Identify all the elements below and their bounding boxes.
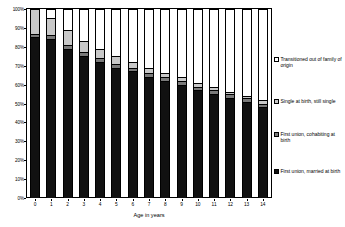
bar-age-0[interactable]	[30, 9, 40, 198]
bar-segment	[193, 9, 203, 83]
y-axis-tick-label: 100%	[13, 7, 24, 12]
bar-age-2[interactable]	[63, 9, 73, 198]
x-axis-tick-mark	[165, 199, 166, 201]
legend-label: Transitioned out of family of origin	[281, 56, 345, 68]
plot-area	[27, 9, 271, 198]
x-axis-tick-mark	[84, 199, 85, 201]
y-axis-tick-label: 60%	[15, 82, 24, 87]
legend-item-transitioned[interactable]: Transitioned out of family of origin	[274, 56, 345, 68]
x-axis-tick-mark	[263, 199, 264, 201]
legend-swatch-icon	[274, 57, 279, 62]
bar-segment	[30, 9, 40, 34]
x-axis-tick-label: 6	[131, 202, 134, 208]
bar-age-3[interactable]	[79, 9, 89, 198]
legend-swatch-icon	[274, 169, 279, 174]
x-axis-tick-label: 3	[83, 202, 86, 208]
bar-segment	[242, 9, 252, 96]
x-axis-tick-label: 10	[195, 202, 200, 208]
y-axis-tick-label: 50%	[15, 101, 24, 106]
bar-segment	[177, 9, 187, 77]
x-axis-tick-label: 14	[260, 202, 265, 208]
y-axis-tick-label: 70%	[15, 63, 24, 68]
bar-segment	[46, 18, 56, 35]
bar-segment	[111, 56, 121, 64]
bar-segment	[95, 9, 105, 49]
y-axis: 0%10%20%30%40%50%60%70%80%90%100%	[0, 0, 26, 206]
bar-segment	[225, 98, 235, 198]
bar-segment	[95, 62, 105, 198]
x-axis-tick-mark	[198, 199, 199, 201]
legend-label: First union, married at birth	[281, 168, 341, 174]
x-axis-tick-mark	[116, 199, 117, 201]
bar-age-8[interactable]	[160, 9, 170, 198]
x-axis-tick-mark	[100, 199, 101, 201]
bar-segment	[46, 39, 56, 198]
bar-segment	[177, 85, 187, 198]
x-axis-tick-label: 11	[212, 202, 217, 208]
bar-segment	[160, 9, 170, 73]
x-axis-tick-mark	[133, 199, 134, 201]
legend-item-married[interactable]: First union, married at birth	[274, 168, 345, 174]
bar-segment	[111, 68, 121, 198]
y-axis-tick-label: 80%	[15, 44, 24, 49]
bar-segment	[193, 90, 203, 198]
bar-segment	[225, 9, 235, 92]
x-axis-tick-mark	[214, 199, 215, 201]
bar-segment	[111, 9, 121, 56]
bar-segment	[160, 81, 170, 198]
bar-segment	[79, 9, 89, 41]
bar-segment	[209, 94, 219, 198]
bar-age-1[interactable]	[46, 9, 56, 198]
bar-age-9[interactable]	[177, 9, 187, 198]
legend-swatch-icon	[274, 99, 279, 104]
legend-label: First union, cohabiting at birth	[281, 131, 345, 143]
bar-segment	[128, 9, 138, 62]
bar-age-11[interactable]	[209, 9, 219, 198]
bar-age-4[interactable]	[95, 9, 105, 198]
bar-segment	[258, 9, 268, 100]
bar-segment	[144, 9, 154, 68]
bar-age-12[interactable]	[225, 9, 235, 198]
bar-segment	[30, 37, 40, 198]
x-axis: 01234567891011121314	[27, 199, 271, 211]
x-axis-tick-label: 9	[180, 202, 183, 208]
y-axis-tick-label: 40%	[15, 120, 24, 125]
x-axis-tick-mark	[68, 199, 69, 201]
x-axis-tick-label: 13	[244, 202, 249, 208]
bar-segment	[63, 9, 73, 30]
bar-segment	[242, 102, 252, 198]
bar-age-6[interactable]	[128, 9, 138, 198]
x-axis-tick-label: 0	[34, 202, 37, 208]
x-axis-tick-label: 5	[115, 202, 118, 208]
bar-segment	[258, 107, 268, 198]
x-axis-tick-mark	[230, 199, 231, 201]
bar-segment	[95, 49, 105, 58]
bar-segment	[79, 41, 89, 52]
bar-segment	[63, 49, 73, 198]
bar-age-5[interactable]	[111, 9, 121, 198]
legend-label: Single at birth, still single	[281, 98, 336, 104]
bar-age-7[interactable]	[144, 9, 154, 198]
bar-segment	[79, 56, 89, 198]
x-axis-tick-label: 1	[50, 202, 53, 208]
x-axis-tick-mark	[35, 199, 36, 201]
bar-segment	[128, 71, 138, 198]
y-axis-tick-label: 20%	[15, 158, 24, 163]
x-axis-tick-label: 2	[66, 202, 69, 208]
bar-age-13[interactable]	[242, 9, 252, 198]
bar-age-14[interactable]	[258, 9, 268, 198]
x-axis-tick-mark	[182, 199, 183, 201]
x-axis-tick-mark	[247, 199, 248, 201]
y-axis-tick-label: 10%	[15, 177, 24, 182]
bar-segment	[144, 77, 154, 198]
bar-segment	[209, 9, 219, 86]
bar-age-10[interactable]	[193, 9, 203, 198]
x-axis-tick-mark	[149, 199, 150, 201]
legend-swatch-icon	[274, 132, 279, 137]
y-axis-tick-mark	[24, 198, 26, 199]
legend-item-cohabiting[interactable]: First union, cohabiting at birth	[274, 131, 345, 143]
legend-item-single[interactable]: Single at birth, still single	[274, 98, 345, 104]
x-axis-title: Age in years	[27, 212, 271, 218]
stacked-bar-chart: 0%10%20%30%40%50%60%70%80%90%100% 012345…	[0, 0, 345, 227]
x-axis-tick-mark	[51, 199, 52, 201]
